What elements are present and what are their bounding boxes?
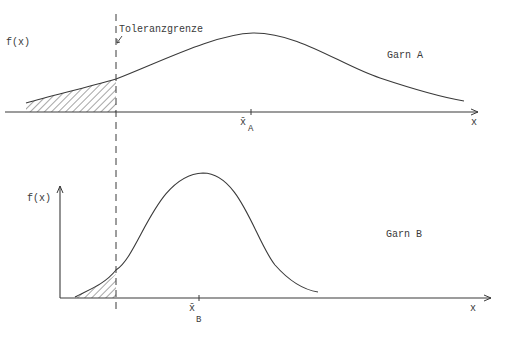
tolerance-pointer-icon xyxy=(117,36,122,43)
mean-sub-a: A xyxy=(248,124,254,134)
panel-garn-a: f(x) x̄ A x Garn A xyxy=(5,33,478,134)
panel-garn-b: f(x) x̄ B x Garn B xyxy=(27,173,491,325)
shaded-tail-a xyxy=(26,79,116,112)
mean-label-a: x̄ xyxy=(240,117,246,128)
title-garn-b: Garn B xyxy=(386,229,422,240)
diagram: Toleranzgrenze f(x) x̄ A x Garn A f(x) x… xyxy=(0,0,513,337)
mean-sub-b: B xyxy=(196,315,202,325)
x-label-b: x xyxy=(470,303,476,314)
y-label-a: f(x) xyxy=(6,37,30,48)
y-label-b: f(x) xyxy=(27,193,51,204)
x-label-a: x xyxy=(471,117,477,128)
title-garn-a: Garn A xyxy=(387,50,423,61)
tolerance-label: Toleranzgrenze xyxy=(119,24,203,35)
mean-label-b: x̄ xyxy=(189,303,195,314)
